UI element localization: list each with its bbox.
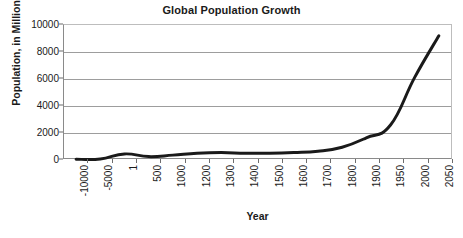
x-tick-mark [355, 159, 356, 163]
y-tick-label: 8000 [0, 46, 59, 57]
x-tick-label: 1500 [274, 165, 285, 187]
x-tick-label: 1 [128, 165, 139, 171]
x-tick-label: 1700 [322, 165, 333, 187]
y-tick-label: 10000 [0, 19, 59, 30]
x-tick-mark [330, 159, 331, 163]
x-tick-mark [379, 159, 380, 163]
x-tick-mark [87, 159, 88, 163]
x-tick-label: 2000 [420, 165, 431, 187]
x-tick-mark [428, 159, 429, 163]
x-tick-mark [282, 159, 283, 163]
line-series-global-population [64, 25, 451, 159]
y-axis-tick-labels: 0200040006000800010000 [0, 24, 59, 159]
x-tick-label: 1950 [395, 165, 406, 187]
x-tick-label: -10000 [79, 165, 90, 196]
x-tick-mark [452, 159, 453, 163]
x-tick-label: 1400 [249, 165, 260, 187]
x-tick-label: 1900 [371, 165, 382, 187]
x-tick-mark [306, 159, 307, 163]
x-tick-label: 500 [152, 165, 163, 182]
y-tick-label: 4000 [0, 100, 59, 111]
x-tick-label: 1600 [298, 165, 309, 187]
x-tick-label: 1000 [176, 165, 187, 187]
x-tick-mark [160, 159, 161, 163]
y-tick-label: 6000 [0, 73, 59, 84]
x-tick-label: 1200 [201, 165, 212, 187]
x-tick-label: 1800 [347, 165, 358, 187]
x-tick-mark [112, 159, 113, 163]
plot-area [63, 24, 452, 159]
x-tick-mark [136, 159, 137, 163]
x-tick-label: -5000 [103, 165, 114, 191]
x-tick-label: 1300 [225, 165, 236, 187]
x-axis-title: Year [63, 210, 452, 222]
x-tick-mark [185, 159, 186, 163]
x-tick-mark [233, 159, 234, 163]
chart-figure: Global Population Growth Population, in … [0, 0, 463, 238]
y-tick-label: 0 [0, 154, 59, 165]
x-tick-mark [403, 159, 404, 163]
series-path [76, 36, 439, 160]
x-tick-label: 2050 [444, 165, 455, 187]
x-axis-tick-labels: -10000-500015001000120013001400150016001… [63, 159, 452, 205]
x-tick-mark [209, 159, 210, 163]
y-tick-label: 2000 [0, 127, 59, 138]
x-tick-mark [258, 159, 259, 163]
chart-title: Global Population Growth [0, 4, 463, 16]
